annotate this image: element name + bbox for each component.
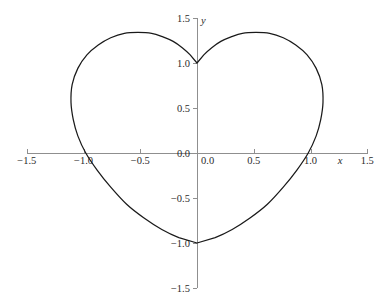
x-tick-label: 1.5: [361, 155, 374, 166]
scan-artifact-bottom: [160, 292, 280, 300]
x-tick-label: 0.0: [201, 155, 214, 166]
x-tick-label: 0.5: [247, 155, 260, 166]
y-tick-label: 1.0: [177, 58, 190, 69]
y-tick-label: −0.5: [171, 193, 190, 204]
y-tick-label: −1.0: [171, 238, 190, 249]
y-tick-label: 0.0: [177, 148, 190, 159]
y-axis-label: y: [200, 15, 206, 26]
y-tick-label: 1.5: [177, 13, 190, 24]
plot-canvas: −1.5−1.0−0.50.00.51.01.5 1.51.00.50.0−0.…: [0, 0, 387, 303]
x-axis-label: x: [337, 155, 343, 166]
x-tick-label: −1.5: [17, 155, 36, 166]
x-tick-label: −0.5: [131, 155, 150, 166]
y-tick-label: 0.5: [177, 103, 190, 114]
x-axis-ticks: −1.5−1.0−0.50.00.51.01.5: [17, 149, 374, 166]
heart-curve-plot: −1.5−1.0−0.50.00.51.01.5 1.51.00.50.0−0.…: [0, 0, 387, 303]
